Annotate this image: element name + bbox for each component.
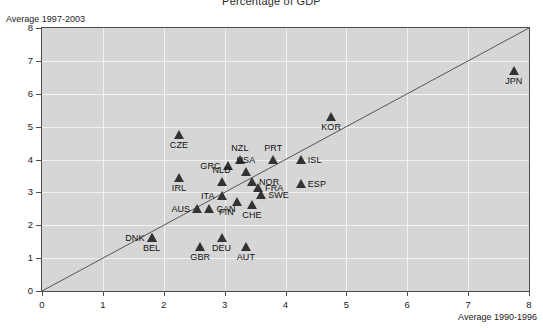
x-tick-mark (346, 291, 347, 296)
data-point-label: SWE (268, 191, 289, 200)
x-tick-label: 3 (222, 300, 227, 310)
triangle-marker-icon (217, 177, 227, 186)
x-tick-label: 1 (100, 300, 105, 310)
data-point-label: DNK (125, 234, 144, 243)
data-point-label: USA (237, 156, 256, 165)
y-tick-label: 5 (28, 122, 33, 132)
y-tick-mark (36, 127, 42, 128)
data-point-label: DEU (212, 244, 231, 253)
x-tick-mark (407, 291, 408, 296)
y-tick-mark (36, 192, 42, 193)
x-tick-label: 0 (39, 300, 44, 310)
y-tick-label: 1 (28, 253, 33, 263)
triangle-marker-icon (192, 204, 202, 213)
triangle-marker-icon (147, 233, 157, 242)
triangle-marker-icon (326, 112, 336, 121)
data-point-label: JPN (505, 77, 522, 86)
data-point-label: IRL (172, 184, 186, 193)
y-axis-label: Average 1997-2003 (6, 14, 85, 24)
data-point-label: KOR (321, 123, 341, 132)
x-tick-label: 5 (344, 300, 349, 310)
y-tick-label: 2 (28, 221, 33, 231)
triangle-marker-icon (217, 233, 227, 242)
triangle-marker-icon (268, 155, 278, 164)
y-tick-label: 6 (28, 89, 33, 99)
y-tick-label: 0 (28, 286, 33, 296)
y-tick-mark (36, 258, 42, 259)
x-tick-label: 4 (283, 300, 288, 310)
y-tick-mark (36, 160, 42, 161)
data-point-label: AUT (237, 253, 255, 262)
y-tick-label: 4 (28, 155, 33, 165)
triangle-marker-icon (204, 204, 214, 213)
triangle-marker-icon (195, 242, 205, 251)
x-tick-label: 6 (405, 300, 410, 310)
triangle-marker-icon (241, 167, 251, 176)
triangle-marker-icon (174, 173, 184, 182)
data-point-label: NZL (231, 144, 248, 153)
y-tick-mark (36, 94, 42, 95)
data-point-label: PRT (264, 144, 282, 153)
chart-figure: Percentage of GDP Average 1997-2003 Aver… (0, 0, 543, 332)
data-point-label: NLD (212, 166, 230, 175)
triangle-marker-icon (174, 130, 184, 139)
x-tick-label: 2 (161, 300, 166, 310)
x-tick-label: 7 (465, 300, 470, 310)
x-tick-mark (468, 291, 469, 296)
data-point-label: ISL (308, 156, 322, 165)
y-tick-label: 7 (28, 56, 33, 66)
data-point-label: CZE (170, 141, 188, 150)
x-tick-mark (42, 291, 43, 296)
triangle-marker-icon (256, 190, 266, 199)
data-point-label: ITA (201, 192, 215, 201)
chart-title: Percentage of GDP (0, 0, 543, 7)
data-point-label: GBR (190, 253, 210, 262)
data-points: JPNKORCZENZLPRTISLGRCUSAIRLNLDNORESPFRAS… (42, 28, 529, 291)
data-point-label: BEL (143, 244, 160, 253)
triangle-marker-icon (296, 179, 306, 188)
data-point-label: CHE (242, 211, 261, 220)
triangle-marker-icon (241, 242, 251, 251)
x-axis-label: Average 1990-1996 (458, 312, 537, 322)
y-tick-label: 8 (28, 23, 33, 33)
x-tick-mark (225, 291, 226, 296)
triangle-marker-icon (296, 155, 306, 164)
data-point-label: CAN (216, 205, 235, 214)
y-tick-mark (36, 61, 42, 62)
y-tick-mark (36, 225, 42, 226)
x-tick-mark (164, 291, 165, 296)
y-tick-label: 3 (28, 188, 33, 198)
x-tick-mark (103, 291, 104, 296)
plot-area: JPNKORCZENZLPRTISLGRCUSAIRLNLDNORESPFRAS… (41, 27, 530, 292)
x-tick-label: 8 (526, 300, 531, 310)
y-tick-mark (36, 28, 42, 29)
x-tick-mark (286, 291, 287, 296)
triangle-marker-icon (509, 66, 519, 75)
triangle-marker-icon (247, 200, 257, 209)
x-tick-mark (529, 291, 530, 296)
data-point-label: ESP (308, 180, 326, 189)
triangle-marker-icon (217, 191, 227, 200)
data-point-label: AUS (171, 205, 190, 214)
